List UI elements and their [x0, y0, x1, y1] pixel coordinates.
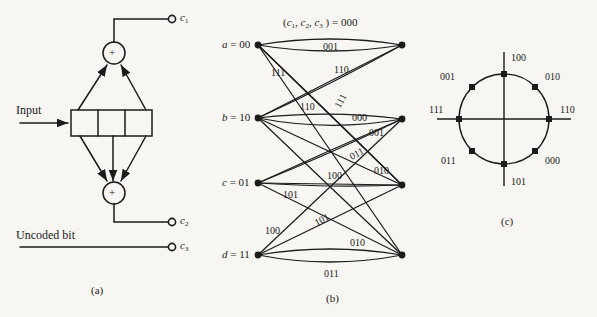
panel-b-caption: (b) — [326, 293, 339, 304]
state-b-letter: b — [222, 111, 228, 123]
constellation-label-001: 001 — [440, 72, 455, 82]
bottom-adder-plus: + — [109, 187, 115, 198]
branch-label-100-cc: 100 — [327, 171, 342, 181]
point-011 — [469, 148, 475, 154]
point-010 — [532, 84, 538, 90]
edge-a-c-lower — [258, 45, 402, 185]
state-c-letter: c — [222, 176, 227, 188]
node-c-left — [255, 180, 262, 187]
point-100 — [501, 71, 507, 77]
c2-label: c2 — [180, 215, 188, 228]
uncoded-bit-label: Uncoded bit — [16, 229, 75, 241]
top-adder-plus: + — [109, 47, 115, 58]
c2-terminal — [168, 218, 175, 225]
state-label-b: b = 10 — [222, 112, 250, 123]
edge-d-d-lower — [258, 255, 402, 262]
point-001 — [469, 84, 475, 90]
state-label-d: d = 11 — [222, 249, 250, 260]
tap-lower-left — [80, 136, 107, 181]
c1-terminal — [168, 15, 175, 22]
figure-container: Input Uncoded bit + + c1 c2 c3 (a) (c1, … — [0, 0, 597, 317]
c2-subscript: 2 — [185, 220, 189, 228]
state-a-bits: 00 — [239, 38, 250, 50]
point-111 — [456, 116, 462, 122]
input-label: Input — [16, 104, 41, 116]
edge-b-a-upper — [258, 45, 402, 118]
tap-lower-right — [121, 136, 146, 181]
point-101 — [501, 161, 507, 167]
state-d-bits: 11 — [239, 248, 250, 260]
c1-subscript: 1 — [185, 17, 189, 25]
branch-label-101-cd: 101 — [283, 190, 298, 200]
branch-label-010-dd: 010 — [350, 238, 365, 248]
state-b-bits: 10 — [239, 111, 250, 123]
c2-output-wire — [114, 204, 168, 222]
edge-b-b-lower — [258, 118, 402, 125]
c3-label: c3 — [180, 240, 188, 253]
trellis-title: (c1, c2, c3 ) = 000 — [283, 17, 357, 30]
tap-upper-left — [78, 65, 107, 110]
edge-d-d-upper — [258, 249, 402, 255]
figure-vector-layer — [0, 0, 597, 317]
constellation-label-110: 110 — [560, 105, 575, 115]
panel-c-caption: (c) — [501, 216, 513, 227]
node-b-right — [399, 116, 406, 123]
encoder-diagram — [20, 15, 176, 250]
node-d-right — [399, 252, 406, 259]
branch-label-010-cc: 010 — [374, 166, 389, 176]
c3-terminal — [168, 243, 175, 250]
c1-label: c1 — [180, 12, 188, 25]
branch-label-111-ac: 111 — [271, 68, 285, 78]
constellation-label-100: 100 — [511, 53, 526, 63]
branch-label-110-ac: 110 — [334, 65, 349, 75]
branch-label-110-ba: 110 — [300, 102, 315, 112]
shift-register-box — [71, 110, 152, 136]
node-a-left — [255, 42, 262, 49]
node-d-left — [255, 252, 262, 259]
constellation-label-000: 000 — [545, 156, 560, 166]
state-a-letter: a — [222, 38, 228, 50]
trellis-title-close: ) = — [323, 16, 341, 28]
panel-a-caption: (a) — [91, 285, 103, 296]
state-label-c: c = 01 — [222, 177, 250, 188]
constellation-label-011: 011 — [441, 156, 456, 166]
branch-label-000-bb: 000 — [352, 113, 367, 123]
tap-upper-right — [121, 65, 146, 110]
trellis-title-value: 000 — [341, 16, 358, 28]
state-label-a: a = 00 — [222, 39, 250, 50]
constellation-label-010: 010 — [545, 72, 560, 82]
state-c-bits: 01 — [239, 176, 250, 188]
branch-label-011-dd: 011 — [324, 269, 339, 279]
node-a-right — [399, 42, 406, 49]
state-d-letter: d — [222, 248, 228, 260]
node-c-right — [399, 182, 406, 189]
branch-label-100-db: 100 — [265, 226, 280, 236]
constellation-label-101: 101 — [511, 177, 526, 187]
branch-label-001-bb: 001 — [369, 128, 384, 138]
point-110 — [546, 116, 552, 122]
node-b-left — [255, 115, 262, 122]
branch-label-001-aa: 001 — [323, 42, 338, 52]
c3-subscript: 3 — [185, 245, 189, 253]
constellation-label-111: 111 — [429, 105, 443, 115]
c1-output-wire — [114, 19, 168, 42]
point-000 — [532, 148, 538, 154]
